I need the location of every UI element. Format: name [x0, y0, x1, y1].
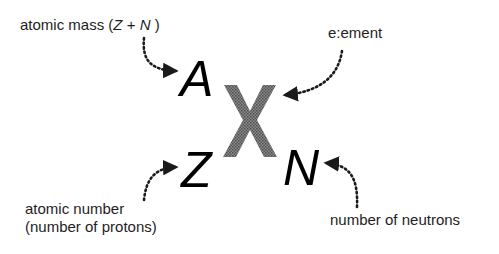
neutrons-label: number of neutrons [330, 211, 460, 229]
atomic-mass-label: atomic mass (Z + N ) [20, 16, 160, 34]
neutron-number-symbol: N [283, 143, 319, 193]
arrow-element [285, 51, 342, 95]
arrow-atomic-number [144, 167, 176, 200]
mass-number-symbol: A [180, 54, 213, 104]
atomic-number-label: atomic number (number of protons) [25, 200, 157, 236]
arrow-neutrons [326, 163, 357, 207]
element-label: e:ement [328, 24, 382, 42]
atomic-number-symbol: Z [181, 145, 212, 195]
element-symbol [220, 83, 280, 159]
arrow-atomic-mass [144, 38, 176, 71]
